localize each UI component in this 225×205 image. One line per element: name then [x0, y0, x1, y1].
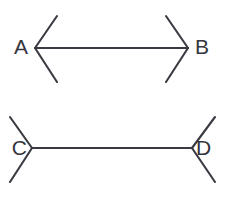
segment-ab-fin-b-upper [166, 16, 188, 48]
label-c: C [12, 136, 27, 159]
segment-ab-fin-a-lower [35, 48, 57, 82]
muller-lyer-canvas: A B C D [0, 0, 225, 205]
muller-lyer-figure: A B C D [0, 0, 225, 205]
label-d: D [196, 136, 211, 159]
segment-ab: A B [14, 16, 209, 82]
label-b: B [195, 35, 209, 58]
segment-ab-fin-b-lower [166, 48, 188, 82]
segment-ab-fin-a-upper [35, 16, 57, 48]
segment-cd: C D [10, 117, 215, 182]
label-a: A [14, 35, 28, 58]
